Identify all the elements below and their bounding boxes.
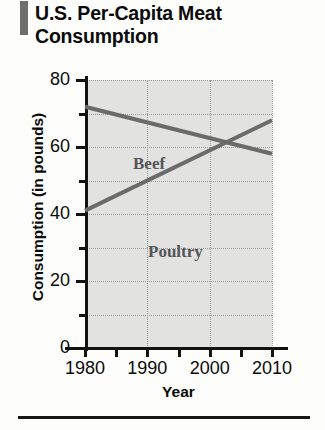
y-axis-tick	[76, 79, 88, 82]
y-axis-tick-label: 80	[28, 69, 70, 90]
chart-figure: Consumption (in pounds) Beef Poultry Yea…	[0, 58, 325, 403]
x-axis-tick-minor	[115, 348, 118, 357]
y-axis-tick	[76, 280, 88, 283]
series-label-poultry: Poultry	[148, 242, 203, 262]
x-axis-tick	[84, 348, 87, 357]
title-block: U.S. Per-Capita Meat Consumption	[0, 0, 325, 58]
title-accent-bar	[20, 1, 28, 35]
series-label-beef: Beef	[133, 154, 165, 174]
x-axis-tick	[209, 348, 212, 357]
x-axis-title: Year	[85, 383, 272, 401]
y-axis-tick-minor	[79, 180, 88, 183]
x-axis-tick-label: 1990	[117, 358, 177, 379]
y-axis-tick-minor	[79, 314, 88, 317]
y-axis-tick-label: 20	[28, 270, 70, 291]
x-axis-tick-label: 2000	[180, 358, 240, 379]
x-axis-tick-label: 1980	[55, 358, 115, 379]
y-axis-tick-minor	[79, 247, 88, 250]
x-axis-tick	[146, 348, 149, 357]
page-title: U.S. Per-Capita Meat Consumption	[35, 2, 315, 48]
series-line-beef	[85, 107, 272, 154]
y-axis-tick-label: 0	[28, 337, 70, 358]
y-axis-tick-label: 60	[28, 136, 70, 157]
series-line-poultry	[85, 120, 272, 210]
y-axis-tick-label: 40	[28, 203, 70, 224]
x-axis-tick-minor	[178, 348, 181, 357]
bottom-divider	[18, 416, 310, 419]
x-axis-tick-label: 2010	[242, 358, 302, 379]
y-axis-tick-minor	[79, 113, 88, 116]
x-axis-tick-minor	[240, 348, 243, 357]
y-axis-tick	[76, 146, 88, 149]
y-axis-tick	[76, 213, 88, 216]
x-axis-tick	[271, 348, 274, 357]
